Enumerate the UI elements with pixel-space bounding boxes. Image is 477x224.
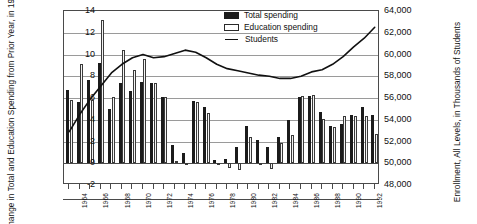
y-axis-right-tick-label: 64,000 [384,5,426,15]
bar-education-spending [375,134,378,163]
x-axis-tick-mark [68,184,69,189]
bar-total-spending [77,102,80,163]
y-axis-right-tick-label: 56,000 [384,92,426,102]
bar-total-spending [161,97,164,163]
bar-total-spending [256,140,259,163]
y-axis-left-tick-label: 12 [73,27,95,37]
x-axis-tick-mark [79,184,80,189]
x-axis-tick-label: 1984 [292,193,299,208]
y-axis-left-tick-label: 6 [73,92,95,102]
x-axis-tick-mark [121,184,122,189]
bar-total-spending [171,145,174,163]
y-axis-left-title: Percent Change in Total and Education Sp… [0,0,24,224]
x-axis-tick-mark [89,184,90,189]
legend-swatch-open-square-icon [224,24,239,31]
x-axis-tick-label: 1976 [208,193,215,208]
bar-total-spending [108,109,111,163]
bar-education-spending [238,163,241,170]
legend: Total spending Education spending Studen… [224,10,318,46]
x-axis-tick-mark [247,184,248,189]
bar-total-spending [129,91,132,163]
x-axis-tick-label: 1988 [334,193,341,208]
bar-total-spending [119,83,122,163]
x-axis-tick-mark [311,184,312,189]
x-axis-tick-label: 1968 [124,193,131,208]
bar-education-spending [365,116,368,163]
chart-container: Percent Change in Total and Education Sp… [0,0,477,224]
bar-education-spending [354,116,357,163]
x-axis-tick-mark [142,184,143,189]
bar-total-spending [350,115,353,163]
legend-label-students: Students [245,34,278,45]
legend-item-total-spending: Total spending [224,10,318,21]
y-axis-left-tick-label: 2 [73,136,95,146]
bar-education-spending [175,161,178,163]
bar-education-spending [154,83,157,163]
bar-total-spending [192,101,195,163]
x-axis-tick-mark [195,184,196,189]
bar-education-spending [259,163,262,165]
y-axis-right-tick-label: 48,000 [384,179,426,189]
x-axis-tick-mark [100,184,101,189]
x-axis-tick-mark [174,184,175,189]
x-axis-tick-mark [131,184,132,189]
bar-total-spending [319,112,322,163]
bar-education-spending [101,20,104,164]
bar-education-spending [228,163,231,167]
bar-education-spending [217,163,220,165]
x-axis-tick-mark [258,184,259,189]
y-axis-left-tick-label: 8 [73,70,95,80]
legend-swatch-filled-square-icon [224,12,239,19]
x-axis-ticks: 1964196619681970197219741976197819801982… [63,184,379,224]
legend-item-education-spending: Education spending [224,22,318,33]
x-axis-tick-label: 1980 [250,193,257,208]
x-axis-tick-mark [353,184,354,189]
bar-education-spending [270,163,273,168]
legend-label-education-spending: Education spending [244,22,318,33]
y-axis-left-title-text: Percent Change in Total and Education Sp… [7,0,17,224]
x-axis-tick-label: 1974 [187,193,194,208]
y-axis-right-tick-label: 62,000 [384,27,426,37]
y-axis-right-tick-label: 58,000 [384,70,426,80]
bar-total-spending [361,107,364,164]
x-axis-tick-mark [110,184,111,189]
bar-education-spending [164,97,167,163]
bar-total-spending [98,63,101,163]
bar-education-spending [70,100,73,163]
bar-total-spending [266,147,269,163]
bar-total-spending [277,137,280,163]
x-axis-tick-mark [237,184,238,189]
bar-total-spending [182,153,185,163]
bar-total-spending [235,147,238,163]
x-axis-tick-mark [205,184,206,189]
bar-education-spending [322,119,325,164]
bar-education-spending [333,127,336,163]
bar-education-spending [112,97,115,163]
bar-education-spending [196,102,199,163]
bar-education-spending [249,137,252,163]
x-axis-tick-mark [279,184,280,189]
bar-total-spending [140,82,143,164]
bar-education-spending [143,59,146,163]
y-axis-right-tick-label: 50,000 [384,157,426,167]
x-axis-tick-mark [374,184,375,189]
x-axis-tick-mark [342,184,343,189]
bar-total-spending [329,126,332,163]
x-axis-tick-mark [163,184,164,189]
bar-education-spending [291,135,294,163]
bar-education-spending [122,50,125,163]
bar-total-spending [66,90,69,163]
bar-total-spending [150,83,153,163]
legend-label-total-spending: Total spending [244,10,298,21]
y-axis-left-tick-label: 0 [73,157,95,167]
x-axis-tick-mark [332,184,333,189]
y-axis-left-tick-label: 10 [73,49,95,59]
y-axis-left-tick-label: 14 [73,5,95,15]
y-axis-right-title: Enrollment, All Levels, in Thousands of … [443,0,473,224]
bar-education-spending [207,113,210,163]
bar-total-spending [340,124,343,163]
x-axis-tick-label: 1978 [229,193,236,208]
legend-item-students: Students [224,34,318,45]
bar-education-spending [301,96,304,163]
legend-swatch-line-icon [225,39,238,40]
